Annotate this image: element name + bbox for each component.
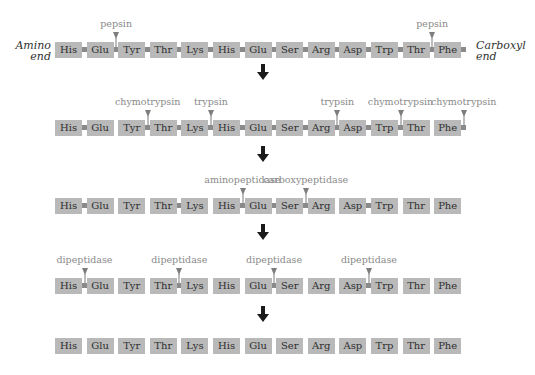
residue-lys: Lys [181,198,208,214]
residue-glu: Glu [245,338,272,354]
residue-his: His [213,278,240,294]
residue-his: His [213,338,240,354]
enzyme-label-dipeptidase: dipeptidase [56,254,112,265]
residue-phe: Phe [434,42,461,58]
enzyme-label-chymotrypsin: chymotrypsin [431,96,496,107]
enzyme-label-chymotrypsin: chymotrypsin [368,96,433,107]
residue-his: His [213,120,240,136]
cleavage-site-line [463,116,464,125]
residue-asp: Asp [339,338,366,354]
residue-thr: Thr [150,338,177,354]
residue-phe: Phe [434,198,461,214]
peptide-row-stage-4: HisGluTyrThrLysHisGluSerArgAspTrpThrPhe [0,278,535,294]
cleavage-site-line [147,116,148,125]
cleavage-site-line [179,274,180,283]
down-arrow-icon [259,146,267,162]
residue-asp: Asp [339,42,366,58]
residue-glu: Glu [245,120,272,136]
enzyme-label-trypsin: trypsin [320,96,354,107]
enzyme-label-carboxypeptidase: carboxypeptidase [263,174,348,185]
residue-trp: Trp [371,120,398,136]
residue-arg: Arg [308,278,335,294]
residue-lys: Lys [181,42,208,58]
cleavage-site-line [337,116,338,125]
enzyme-label-trypsin: trypsin [194,96,228,107]
residue-thr: Thr [403,42,430,58]
cleavage-site-line [116,38,117,47]
residue-ser: Ser [276,120,303,136]
residue-tyr: Tyr [118,120,145,136]
down-arrow-icon [259,306,267,322]
down-arrow-icon [259,64,267,80]
down-arrow-icon [259,224,267,240]
cleavage-site-line [274,274,275,283]
peptide-row-stage-2: HisGluTyrThrLysHisGluSerArgAspTrpThrPhe [0,120,535,136]
cleavage-site-line [84,274,85,283]
residue-phe: Phe [434,278,461,294]
enzyme-label-chymotrypsin: chymotrypsin [115,96,180,107]
peptide-row-stage-1: HisGluTyrThrLysHisGluSerArgAspTrpThrPhe [0,42,535,58]
residue-tyr: Tyr [118,278,145,294]
residue-his: His [213,198,240,214]
residue-tyr: Tyr [118,42,145,58]
residue-arg: Arg [308,120,335,136]
cleavage-site-line [432,38,433,47]
residue-thr: Thr [403,120,430,136]
enzyme-label-dipeptidase: dipeptidase [341,254,397,265]
residue-his: His [213,42,240,58]
peptide-row-stage-5: HisGluTyrThrLysHisGluSerArgAspTrpThrPhe [0,338,535,354]
enzyme-label-dipeptidase: dipeptidase [151,254,207,265]
residue-his: His [55,198,82,214]
arrow-head [257,154,269,162]
residue-glu: Glu [87,278,114,294]
residue-thr: Thr [150,198,177,214]
peptide-row-stage-3: HisGluTyrThrLysHisGluSerArgAspTrpThrPhe [0,198,535,214]
cleavage-site-line [305,194,306,203]
cleavage-site-line [210,116,211,125]
peptide-bond [461,47,466,52]
residue-arg: Arg [308,42,335,58]
residue-thr: Thr [150,42,177,58]
residue-trp: Trp [371,338,398,354]
residue-his: His [55,338,82,354]
cleavage-site-line [368,274,369,283]
residue-thr: Thr [403,338,430,354]
cleavage-site-line [400,116,401,125]
residue-ser: Ser [276,198,303,214]
residue-ser: Ser [276,42,303,58]
residue-glu: Glu [87,120,114,136]
residue-asp: Asp [339,198,366,214]
residue-glu: Glu [245,278,272,294]
residue-glu: Glu [87,42,114,58]
residue-trp: Trp [371,198,398,214]
residue-lys: Lys [181,338,208,354]
residue-phe: Phe [434,338,461,354]
enzyme-label-pepsin: pepsin [416,18,448,29]
residue-thr: Thr [403,278,430,294]
residue-glu: Glu [87,338,114,354]
residue-arg: Arg [308,338,335,354]
residue-ser: Ser [276,338,303,354]
residue-trp: Trp [371,278,398,294]
residue-asp: Asp [339,120,366,136]
cleavage-site-line [242,194,243,203]
residue-tyr: Tyr [118,198,145,214]
arrow-head [257,314,269,322]
enzyme-label-pepsin: pepsin [100,18,132,29]
residue-trp: Trp [371,42,398,58]
residue-phe: Phe [434,120,461,136]
protein-digestion-diagram: Amino end Carboxyl end HisGluTyrThrLysHi… [0,0,535,375]
residue-glu: Glu [87,198,114,214]
residue-lys: Lys [181,120,208,136]
arrow-head [257,232,269,240]
residue-ser: Ser [276,278,303,294]
residue-his: His [55,120,82,136]
peptide-bond [461,125,466,130]
residue-thr: Thr [150,278,177,294]
residue-glu: Glu [245,198,272,214]
residue-thr: Thr [150,120,177,136]
enzyme-label-dipeptidase: dipeptidase [246,254,302,265]
residue-his: His [55,278,82,294]
residue-lys: Lys [181,278,208,294]
residue-glu: Glu [245,42,272,58]
